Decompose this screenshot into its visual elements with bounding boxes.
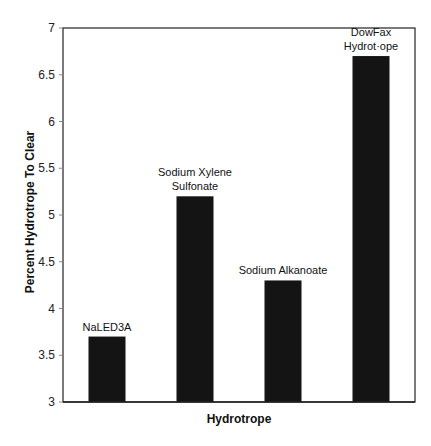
- bar: [265, 280, 302, 402]
- bar-label: Sodium Xylene: [158, 166, 232, 178]
- bar-label: Hydrot·ope: [344, 40, 398, 52]
- y-tick-label: 3: [48, 395, 55, 409]
- bar: [353, 56, 390, 402]
- y-tick-label: 7: [48, 21, 55, 35]
- bar: [89, 337, 126, 402]
- y-tick-label: 4.5: [38, 255, 55, 269]
- y-tick-label: 3.5: [38, 348, 55, 362]
- bar-chart: 33.544.555.566.57NaLED3ASodium XyleneSul…: [0, 0, 431, 446]
- bar-label: Sulfonate: [172, 180, 218, 192]
- bar-label: DowFax: [351, 26, 392, 38]
- bar-label: NaLED3A: [83, 321, 133, 333]
- bar: [177, 196, 214, 402]
- y-tick-label: 4: [48, 302, 55, 316]
- y-tick-label: 6.5: [38, 68, 55, 82]
- x-axis-label: Hydrotrope: [63, 412, 415, 426]
- y-tick-label: 5.5: [38, 161, 55, 175]
- y-tick-label: 5: [48, 208, 55, 222]
- y-tick-label: 6: [48, 115, 55, 129]
- y-axis-label: Percent Hydrotrope To Clear: [23, 112, 37, 312]
- bar-label: Sodium Alkanoate: [239, 264, 328, 276]
